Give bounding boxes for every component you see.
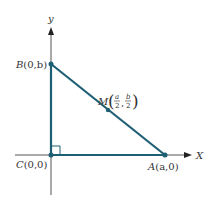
- triangle-diagram: y X B(0,b) C(0,0) A(a,0) M ( a 2 , b 2 ): [0, 0, 216, 197]
- svg-text:,: ,: [121, 97, 124, 108]
- svg-text:a: a: [115, 93, 119, 101]
- label-m: M ( a 2 , b 2 ): [97, 91, 139, 111]
- label-c: C(0,0): [16, 159, 47, 170]
- svg-text:(: (: [108, 91, 115, 111]
- point-a: [163, 153, 168, 158]
- svg-text:b: b: [126, 93, 131, 101]
- svg-text:2: 2: [115, 102, 119, 110]
- x-axis-label: X: [195, 150, 204, 161]
- svg-text:2: 2: [126, 102, 130, 110]
- y-axis-arrow-icon: [48, 27, 54, 35]
- label-b: B(0,b): [15, 59, 47, 70]
- x-axis-arrow-icon: [184, 152, 192, 158]
- y-axis-label: y: [47, 13, 54, 24]
- label-a: A(a,0): [147, 161, 179, 172]
- point-c: [49, 153, 54, 158]
- svg-text:): ): [132, 91, 139, 111]
- point-b: [49, 62, 54, 67]
